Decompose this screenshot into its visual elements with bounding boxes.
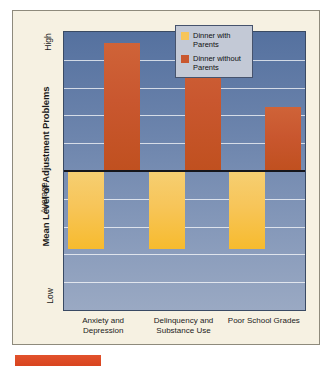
legend: Dinner with Parents Dinner without Paren… bbox=[175, 25, 253, 78]
legend-swatch-icon bbox=[181, 55, 189, 63]
legend-item: Dinner with Parents bbox=[181, 31, 248, 49]
y-tick-label-average: Average bbox=[39, 177, 49, 219]
y-axis-title: Mean Level of Adjustment Problems bbox=[40, 62, 51, 272]
y-tick-label-high: High bbox=[43, 21, 53, 63]
gridline bbox=[64, 254, 305, 255]
average-baseline bbox=[64, 170, 305, 172]
bar-dinner-with-parents bbox=[68, 171, 104, 249]
legend-item-label: Dinner with Parents bbox=[193, 31, 248, 49]
y-tick-label-low: Low bbox=[45, 275, 55, 317]
legend-item: Dinner without Parents bbox=[181, 54, 248, 72]
bottom-accent-bar bbox=[15, 355, 101, 366]
gridline bbox=[64, 282, 305, 283]
x-axis-tick-labels: Anxiety and DepressionDelinquency and Su… bbox=[63, 314, 306, 344]
bar-dinner-with-parents bbox=[229, 171, 265, 249]
figure-frame: Mean Level of Adjustment Problems High A… bbox=[12, 10, 320, 345]
x-tick-label: Delinquency and Substance Use bbox=[143, 316, 223, 336]
bar-dinner-without-parents bbox=[265, 107, 301, 171]
legend-swatch-icon bbox=[181, 32, 189, 40]
legend-item-label: Dinner without Parents bbox=[193, 54, 248, 72]
bar-dinner-without-parents bbox=[104, 43, 140, 171]
x-tick-label: Anxiety and Depression bbox=[63, 316, 143, 336]
x-tick-label: Poor School Grades bbox=[224, 316, 304, 326]
bar-dinner-with-parents bbox=[149, 171, 185, 249]
